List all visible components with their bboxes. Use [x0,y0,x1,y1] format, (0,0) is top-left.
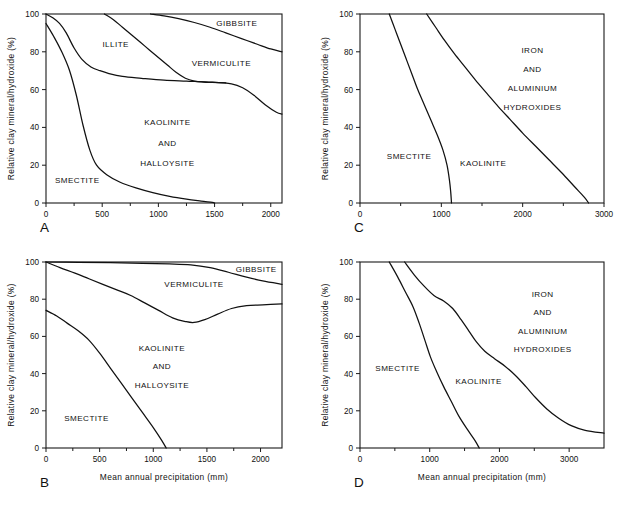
x-axis-tick-label: 1000 [149,210,168,219]
y-axis-tick-label: 0 [34,444,39,453]
x-axis-tick-label: 3000 [560,455,579,464]
y-axis-tick-label: 40 [30,123,40,132]
y-axis-tick-label: 0 [348,199,353,208]
region-label: GIBBSITE [216,19,257,28]
y-axis-tick-label: 60 [344,86,354,95]
chart-panel-D: 0204060801000100020003000IRONANDALUMINIU… [314,252,628,505]
region-label: HALLOYSITE [135,381,190,390]
chart-svg-B: 0204060801000500100015002000GIBBSITEVERM… [0,252,314,505]
y-axis-title: Relative clay mineral/hydroxide (%) [6,283,16,427]
curve-smectite-boundary [46,310,166,448]
x-axis-tick-label: 0 [44,455,49,464]
region-label: HYDROXIDES [514,345,572,354]
curve-kaolinite-boundary [405,262,604,433]
x-axis-title: Mean annual precipitation (mm) [418,472,546,482]
region-label: SMECTITE [64,414,109,423]
chart-panel-B: 0204060801000500100015002000GIBBSITEVERM… [0,252,314,505]
region-label: ALUMINIUM [518,327,567,336]
y-axis-tick-label: 100 [25,10,39,19]
x-axis-title: Mean annual precipitation (mm) [100,472,228,482]
panel-letter: D [354,475,364,490]
x-axis-tick-label: 1500 [198,455,217,464]
y-axis-tick-label: 0 [34,199,39,208]
x-axis-tick-label: 1000 [432,210,451,219]
x-axis-tick-label: 500 [95,210,109,219]
y-axis-tick-label: 60 [30,86,40,95]
x-axis-tick-label: 0 [44,210,49,219]
x-axis-tick-label: 2000 [514,210,533,219]
curve-smectite-boundary [389,14,451,203]
y-axis-tick-label: 20 [30,407,40,416]
y-axis-tick-label: 0 [348,444,353,453]
region-label: KAOLINITE [460,159,506,168]
x-axis-tick-label: 3000 [595,210,614,219]
region-label: VERMICULITE [164,280,224,289]
y-axis-tick-label: 100 [339,10,353,19]
x-axis-tick-label: 2000 [262,210,281,219]
y-axis-title: Relative clay mineral/hydroxide (%) [320,283,330,427]
region-label: ALUMINIUM [508,84,557,93]
plot-frame [46,14,282,203]
x-axis-tick-label: 1000 [421,455,440,464]
region-label: GIBBSITE [236,265,277,274]
panel-letter: A [40,220,49,235]
region-label: SMECTITE [387,152,432,161]
plot-frame [360,14,604,203]
clay-mineral-figure: 0204060801000500100015002000GIBBSITEILLI… [0,0,628,505]
y-axis-title: Relative clay mineral/hydroxide (%) [320,37,330,181]
region-label: IRON [532,290,554,299]
x-axis-tick-label: 500 [93,455,107,464]
y-axis-tick-label: 100 [25,258,39,267]
x-axis-tick-label: 2000 [490,455,509,464]
y-axis-title: Relative clay mineral/hydroxide (%) [6,37,16,181]
x-axis-tick-label: 0 [358,210,363,219]
region-label: AND [523,65,541,74]
chart-svg-C: 0204060801000100020003000IRONANDALUMINIU… [314,0,628,252]
x-axis-tick-label: 2000 [251,455,270,464]
y-axis-tick-label: 60 [30,332,40,341]
region-label: ILLITE [102,40,129,49]
panel-letter: B [40,475,49,490]
chart-svg-D: 0204060801000100020003000IRONANDALUMINIU… [314,252,628,505]
y-axis-tick-label: 40 [344,370,354,379]
y-axis-tick-label: 80 [344,295,354,304]
x-axis-tick-label: 1500 [205,210,224,219]
y-axis-tick-label: 80 [30,295,40,304]
y-axis-tick-label: 40 [30,370,40,379]
y-axis-tick-label: 80 [30,48,40,57]
region-label: AND [533,308,551,317]
region-label: HALLOYSITE [140,159,195,168]
region-label: AND [158,139,176,148]
y-axis-tick-label: 20 [344,407,354,416]
y-axis-tick-label: 20 [30,161,40,170]
plot-frame [360,262,604,448]
curve-smectite-boundary [389,262,479,448]
y-axis-tick-label: 40 [344,123,354,132]
region-label: KAOLINITE [456,377,502,386]
region-label: HYDROXIDES [503,103,561,112]
region-label: SMECTITE [375,364,420,373]
region-label: KAOLINITE [144,118,190,127]
chart-svg-A: 0204060801000500100015002000GIBBSITEILLI… [0,0,314,252]
chart-panel-C: 0204060801000100020003000IRONANDALUMINIU… [314,0,628,252]
y-axis-tick-label: 80 [344,48,354,57]
x-axis-tick-label: 0 [358,455,363,464]
region-label: VERMICULITE [192,59,252,68]
y-axis-tick-label: 20 [344,161,354,170]
region-label: AND [153,362,171,371]
x-axis-tick-label: 1000 [144,455,163,464]
region-label: IRON [521,46,543,55]
y-axis-tick-label: 100 [339,258,353,267]
panel-letter: C [354,220,364,235]
region-label: SMECTITE [55,176,100,185]
chart-panel-A: 0204060801000500100015002000GIBBSITEILLI… [0,0,314,252]
y-axis-tick-label: 60 [344,332,354,341]
region-label: KAOLINITE [139,344,185,353]
